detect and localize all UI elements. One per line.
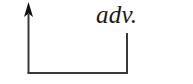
adv-label: adv. <box>96 1 137 29</box>
figure-canvas: adv. <box>0 0 193 84</box>
